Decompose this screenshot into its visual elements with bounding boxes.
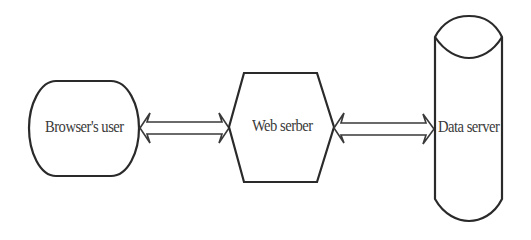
browser-user-label: Browser's user [45,117,124,137]
data-server-label: Data server [438,117,499,137]
web-server-label: Web serber [252,116,313,136]
bidirectional-arrow-1 [140,113,229,143]
bidirectional-arrow-2 [334,113,434,144]
